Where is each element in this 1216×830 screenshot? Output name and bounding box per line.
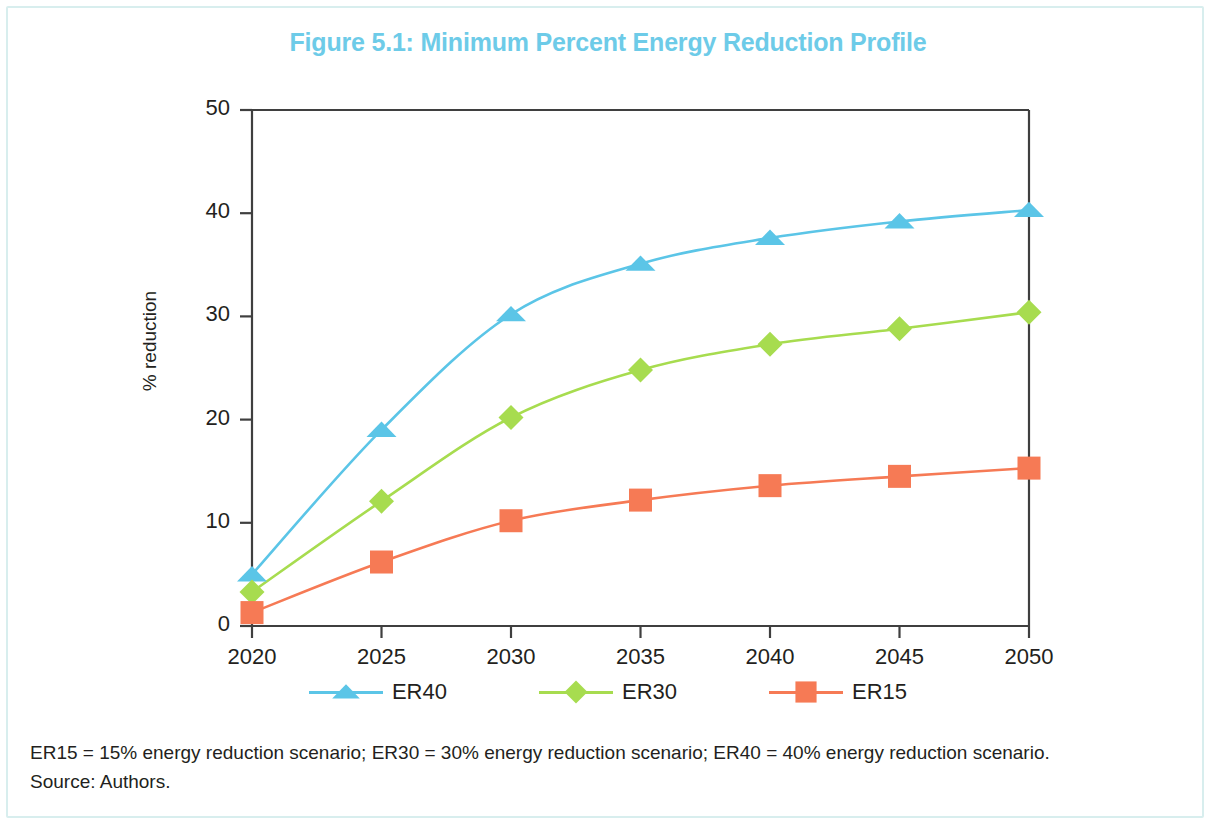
legend-swatch-er15	[769, 678, 843, 706]
y-axis-title: % reduction	[139, 241, 161, 441]
figure-page: Figure 5.1: Minimum Percent Energy Reduc…	[0, 0, 1216, 830]
diamond-icon	[564, 681, 587, 704]
y-tick-label: 40	[170, 198, 230, 224]
data-point-er30	[628, 358, 653, 383]
x-tick-label: 2030	[461, 644, 561, 670]
data-point-er15	[759, 474, 782, 497]
data-point-er40	[237, 566, 267, 581]
data-point-er15	[241, 601, 264, 624]
data-point-er30	[1017, 300, 1042, 325]
series-line-er30	[252, 312, 1029, 592]
legend-marker-diamond-icon	[539, 678, 613, 706]
x-tick-label: 2050	[979, 644, 1079, 670]
data-point-er30	[887, 316, 912, 341]
y-tick-label: 50	[170, 95, 230, 121]
legend-item-er40: ER40	[309, 678, 447, 706]
data-point-er30	[369, 489, 394, 514]
x-tick-label: 2035	[591, 644, 691, 670]
data-point-er15	[500, 509, 523, 532]
data-point-er40	[626, 255, 656, 270]
data-point-er30	[758, 332, 783, 357]
data-point-er40	[1014, 202, 1044, 217]
y-tick-label: 10	[170, 508, 230, 534]
legend-item-er15: ER15	[769, 678, 907, 706]
legend-label: ER40	[392, 679, 447, 705]
square-icon	[795, 681, 816, 702]
data-point-er15	[629, 489, 652, 512]
data-point-er30	[499, 405, 524, 430]
data-point-er15	[370, 551, 393, 574]
data-point-er40	[367, 422, 397, 437]
legend-label: ER15	[852, 679, 907, 705]
y-tick-label: 0	[170, 611, 230, 637]
legend-swatch-er40	[309, 678, 383, 706]
data-point-er30	[240, 579, 265, 604]
legend-item-er30: ER30	[539, 678, 677, 706]
figure-notes: ER15 = 15% energy reduction scenario; ER…	[30, 738, 1190, 797]
note-source: Source: Authors.	[30, 767, 1190, 796]
y-tick-label: 20	[170, 405, 230, 431]
note-definitions: ER15 = 15% energy reduction scenario; ER…	[30, 738, 1190, 767]
legend-marker-triangle-icon	[309, 678, 383, 706]
legend-swatch-er30	[539, 678, 613, 706]
legend-label: ER30	[622, 679, 677, 705]
data-point-er15	[1018, 457, 1041, 480]
data-point-er15	[888, 465, 911, 488]
x-tick-label: 2020	[202, 644, 302, 670]
x-tick-label: 2025	[332, 644, 432, 670]
x-tick-label: 2045	[850, 644, 950, 670]
x-tick-label: 2040	[720, 644, 820, 670]
triangle-icon	[332, 684, 360, 698]
chart-legend: ER40ER30ER15	[0, 678, 1216, 706]
legend-marker-square-icon	[769, 678, 843, 706]
y-tick-label: 30	[170, 301, 230, 327]
